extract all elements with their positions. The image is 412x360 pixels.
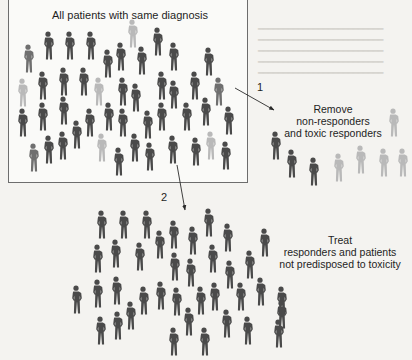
person-icon (208, 245, 218, 273)
person-icon (38, 103, 48, 131)
person-icon (103, 50, 113, 78)
person-icon (157, 72, 167, 100)
treated-patients-group (72, 209, 287, 356)
person-icon (287, 150, 297, 178)
person-icon-light (206, 132, 216, 160)
person-icon (214, 78, 224, 106)
arrow-step-1 (235, 88, 274, 110)
person-icon (58, 132, 68, 160)
person-icon (271, 132, 281, 160)
person-icon (112, 277, 122, 305)
figure-stage: ━━━━━━━━━━━━━━━━━━━━━━━━━ ━━━━━━━━━━━━━━… (0, 0, 412, 360)
person-icon (169, 328, 179, 356)
person-icon (256, 278, 266, 306)
person-icon (111, 240, 121, 268)
person-icon (184, 308, 194, 336)
person-icon (130, 134, 140, 162)
person-icon (113, 312, 123, 340)
person-icon (142, 211, 152, 239)
person-icon (225, 261, 235, 289)
person-icon (137, 47, 147, 75)
person-icon (116, 43, 126, 71)
person-icon (243, 317, 253, 345)
person-icon (204, 209, 214, 237)
person-icon (182, 103, 192, 131)
person-icon (118, 109, 128, 137)
person-icon (72, 286, 82, 314)
person-icon (93, 280, 103, 308)
person-icon (44, 32, 54, 60)
person-icon (72, 121, 82, 149)
person-icon (119, 211, 129, 239)
person-icon (96, 317, 106, 345)
person-icon (260, 229, 270, 257)
person-icon (145, 143, 155, 171)
person-icon (38, 72, 48, 100)
person-icon (104, 103, 114, 131)
person-icon (114, 148, 124, 176)
person-icon (24, 45, 34, 73)
person-icon (236, 283, 246, 311)
person-icon (97, 211, 107, 239)
person-icon (245, 251, 255, 279)
person-icon (200, 328, 210, 356)
person-icon (188, 227, 198, 255)
person-icon (170, 253, 180, 281)
person-icon-light (379, 149, 389, 177)
person-icon (201, 98, 211, 126)
person-icon-light (389, 109, 399, 137)
removed-patients-group (271, 109, 408, 186)
person-icon (191, 138, 201, 166)
person-icon (168, 136, 178, 164)
person-icon (157, 103, 167, 131)
person-icon (172, 288, 182, 316)
person-icon-light (18, 79, 28, 107)
person-icon (44, 136, 54, 164)
person-icon (222, 310, 232, 338)
person-icon (196, 287, 206, 315)
person-icon (169, 221, 179, 249)
person-icon-light (94, 78, 104, 106)
person-icon (79, 68, 89, 96)
person-icon (224, 107, 234, 135)
person-icon-light (334, 154, 344, 182)
person-icon (29, 144, 39, 172)
person-icon (59, 97, 69, 125)
person-icon (126, 302, 136, 330)
person-icon (186, 259, 196, 287)
person-icon (169, 81, 179, 109)
person-icon (59, 68, 69, 96)
person-icon (210, 283, 220, 311)
person-icon-light (398, 149, 408, 177)
person-icon (274, 320, 284, 348)
person-icon (221, 142, 231, 170)
person-icon (131, 84, 141, 112)
people-layer (0, 0, 412, 360)
all-patients-group (18, 20, 234, 176)
person-icon (155, 231, 165, 259)
person-icon (204, 48, 214, 76)
person-icon (135, 243, 145, 271)
person-icon (93, 245, 103, 273)
person-icon (153, 28, 163, 56)
person-icon (18, 109, 28, 137)
person-icon (86, 32, 96, 60)
person-icon (118, 78, 128, 106)
arrow-step-2 (177, 165, 185, 210)
person-icon (190, 72, 200, 100)
person-icon (156, 282, 166, 310)
person-icon (169, 43, 179, 71)
person-icon (309, 158, 319, 186)
person-icon-light (128, 20, 138, 48)
person-icon (143, 111, 153, 139)
person-icon-light (356, 146, 366, 174)
person-icon (85, 109, 95, 137)
person-icon-light (97, 134, 107, 162)
person-icon (139, 287, 149, 315)
person-icon (223, 224, 233, 252)
person-icon (65, 32, 75, 60)
